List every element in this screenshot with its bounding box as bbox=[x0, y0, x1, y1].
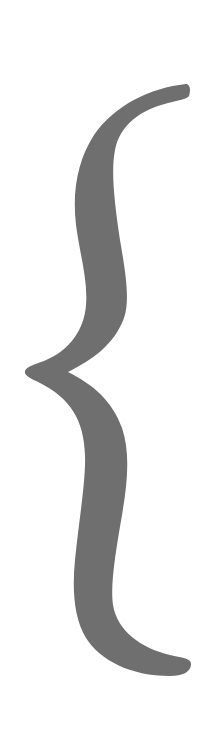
left-curly-brace-icon bbox=[0, 0, 207, 731]
brace-canvas bbox=[0, 0, 207, 731]
brace-shape bbox=[25, 84, 191, 676]
